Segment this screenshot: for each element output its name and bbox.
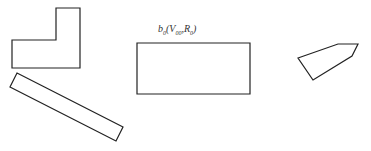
- tilted-bar: [10, 73, 123, 141]
- label-close: ): [193, 23, 196, 34]
- pentagon-tag: [298, 44, 358, 80]
- l-shape: [12, 8, 80, 68]
- target-rectangle: [137, 43, 250, 94]
- rectangle-label: b0(V00,R0): [158, 23, 196, 36]
